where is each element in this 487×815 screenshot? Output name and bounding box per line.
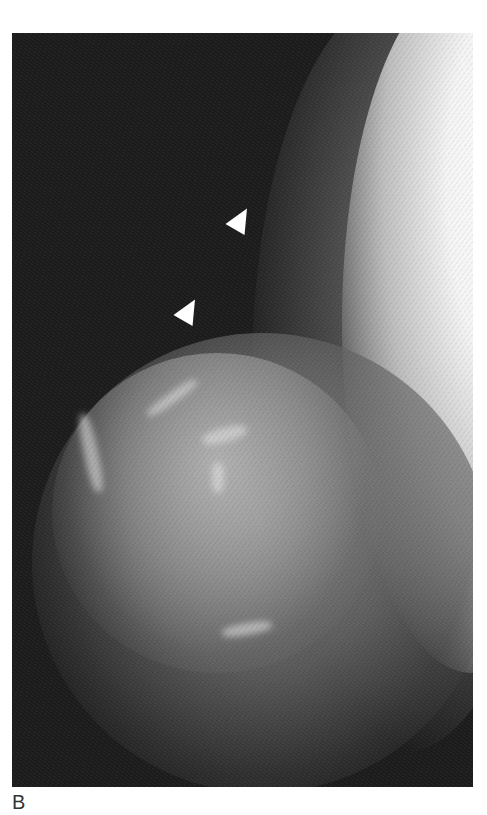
panel-label: B — [12, 791, 25, 813]
mammogram-image — [12, 33, 473, 787]
film-grain — [12, 33, 473, 787]
